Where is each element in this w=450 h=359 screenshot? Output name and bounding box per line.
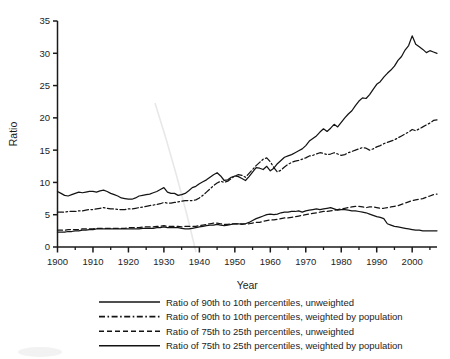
x-tick-label: 1970	[295, 256, 316, 267]
y-tick-label: 35	[39, 15, 50, 26]
y-tick-label: 0	[45, 241, 50, 252]
y-tick-label: 10	[39, 177, 50, 188]
x-tick-label: 1940	[189, 256, 210, 267]
legend-label-4: Ratio of 75th to 25th percentiles, weigh…	[166, 340, 403, 351]
legend-label-2: Ratio of 90th to 10th percentiles, weigh…	[166, 311, 403, 322]
legend-label-1: Ratio of 90th to 10th percentiles, unwei…	[166, 297, 354, 308]
x-tick-label: 1920	[118, 256, 139, 267]
legend-label-3: Ratio of 75th to 25th percentiles, unwei…	[166, 326, 354, 337]
x-tick-label: 1900	[47, 256, 68, 267]
scan-smudge	[18, 347, 62, 357]
y-tick-label: 25	[39, 80, 50, 91]
line-chart: 0510152025303519001910192019301940195019…	[0, 0, 450, 359]
x-tick-label: 1950	[224, 256, 245, 267]
y-tick-label: 20	[39, 112, 50, 123]
x-tick-label: 1990	[366, 256, 387, 267]
x-axis-title: Year	[237, 279, 259, 291]
x-tick-label: 1930	[153, 256, 174, 267]
x-tick-label: 1980	[331, 256, 352, 267]
y-axis-title: Ratio	[7, 122, 19, 147]
y-tick-label: 15	[39, 145, 50, 156]
y-tick-label: 30	[39, 48, 50, 59]
x-tick-label: 2000	[402, 256, 423, 267]
x-tick-label: 1910	[82, 256, 103, 267]
x-tick-label: 1960	[260, 256, 281, 267]
y-tick-label: 5	[45, 209, 50, 220]
figure-container: 0510152025303519001910192019301940195019…	[0, 0, 450, 359]
